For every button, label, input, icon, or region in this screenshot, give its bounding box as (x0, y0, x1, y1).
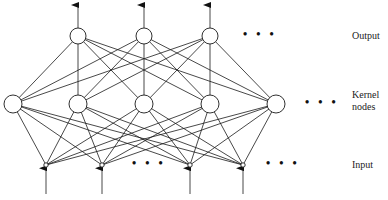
kernel-label-line1: Kernel (352, 89, 379, 101)
output-layer-label: Output (352, 30, 380, 42)
kernel-node (69, 95, 87, 113)
output-node (70, 28, 86, 44)
input-node (241, 163, 245, 167)
kernel-ellipsis: • • • (305, 95, 339, 110)
network-nodes (4, 28, 285, 167)
input-node (188, 163, 192, 167)
input-ellipsis-right: • • • (266, 156, 300, 171)
kernel-label-line2: nodes (352, 101, 379, 113)
kernel-node (4, 95, 22, 113)
kernel-node (267, 95, 285, 113)
kernel-layer-label: Kernel nodes (352, 89, 379, 113)
output-ellipsis: • • • (243, 27, 277, 42)
input-node (44, 163, 48, 167)
input-ellipsis-middle: • • • (132, 156, 166, 171)
output-node (136, 28, 152, 44)
kernel-node (135, 95, 153, 113)
input-layer-label: Input (352, 159, 373, 171)
output-node (202, 28, 218, 44)
input-node (100, 163, 104, 167)
kernel-node (201, 95, 219, 113)
